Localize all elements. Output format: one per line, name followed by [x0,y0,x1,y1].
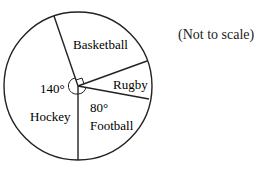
label-rugby: Rugby [113,77,148,92]
label-hockey: Hockey [30,109,71,124]
label-basketball: Basketball [73,37,128,52]
not-to-scale-note: (Not to scale) [178,27,254,43]
football-angle-arc [78,87,86,94]
pie-chart: Basketball Rugby Football Hockey 140° 80… [0,0,254,173]
label-football: Football [90,118,134,133]
label-football-angle: 80° [90,100,108,115]
label-hockey-angle: 140° [40,81,65,96]
